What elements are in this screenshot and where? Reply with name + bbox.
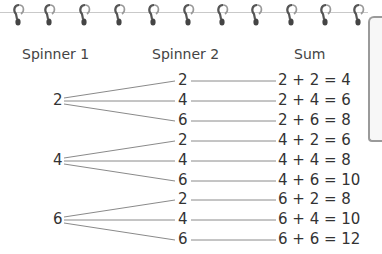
sum-equation: 4 + 6 = 10	[278, 173, 360, 188]
sum-equation: 2 + 4 = 6	[278, 93, 351, 108]
sum-equation: 2 + 2 = 4	[278, 73, 351, 88]
sum-equation: 6 + 6 = 12	[278, 232, 360, 247]
spinner-2-value: 6	[178, 113, 188, 128]
sum-equation: 6 + 2 = 8	[278, 192, 351, 207]
spinner-2-value: 2	[178, 192, 188, 207]
spinner-2-value: 4	[178, 212, 188, 227]
spinner-2-value: 6	[178, 173, 188, 188]
spinner-1-value: 2	[53, 93, 63, 108]
spinner-2-value: 4	[178, 153, 188, 168]
spinner-2-value: 4	[178, 93, 188, 108]
sum-equation: 4 + 2 = 6	[278, 133, 351, 148]
sum-equation: 4 + 4 = 8	[278, 153, 351, 168]
spinner-1-value: 4	[53, 153, 63, 168]
spinner-2-value: 6	[178, 232, 188, 247]
sum-equation: 2 + 6 = 8	[278, 113, 351, 128]
sum-equation: 6 + 4 = 10	[278, 212, 360, 227]
spinner-2-value: 2	[178, 133, 188, 148]
spinner-2-value: 2	[178, 73, 188, 88]
spinner-1-value: 6	[53, 212, 63, 227]
